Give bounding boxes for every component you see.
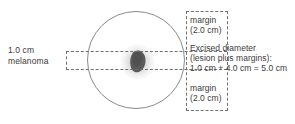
- margin-bottom-line2: (2.0 cm): [190, 93, 294, 103]
- lesion-label: 1.0 cm melanoma: [8, 45, 64, 67]
- excised-line3: 1.0 cm + 4.0 cm = 5.0 cm: [190, 63, 294, 73]
- annotation-margin-top: margin (2.0 cm): [190, 15, 294, 35]
- lesion-name-label: melanoma: [8, 56, 64, 67]
- annotation-column: margin (2.0 cm) Excised diameter (lesion…: [190, 11, 294, 111]
- lesion-size-label: 1.0 cm: [8, 45, 64, 56]
- excised-line1: Excised diameter: [190, 43, 294, 53]
- annotation-excised-diameter: Excised diameter (lesion plus margins): …: [190, 43, 294, 74]
- excised-line2: (lesion plus margins):: [190, 53, 294, 63]
- margin-top-line2: (2.0 cm): [190, 25, 294, 35]
- margin-top-line1: margin: [190, 15, 294, 25]
- annotation-margin-bottom: margin (2.0 cm): [190, 83, 294, 103]
- melanoma-excision-diagram: 1.0 cm melanoma margin (2.0 cm) Excised …: [0, 0, 295, 124]
- margin-bottom-line1: margin: [190, 83, 294, 93]
